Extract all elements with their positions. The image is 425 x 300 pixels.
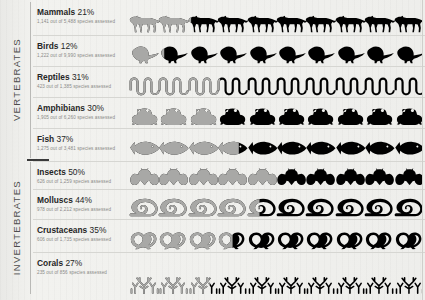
snail-icon [217, 197, 248, 218]
fish-icon [394, 137, 423, 158]
row-mammals-percent: 21% [78, 7, 95, 17]
snake-icon [158, 75, 189, 96]
wolf-icon [335, 13, 366, 34]
snake-icon [217, 75, 248, 96]
row-birds-subtitle: 1,222 out of 9,990 species assessed [37, 52, 129, 59]
bird-icon [217, 44, 248, 65]
row-insects-name: Insects [37, 167, 66, 177]
snake-icon [188, 75, 219, 96]
row-reptiles-subtitle: 423 out of 1,385 species assessed [37, 83, 129, 90]
row-reptiles[interactable]: Reptiles 31%423 out of 1,385 species ass… [33, 66, 425, 97]
frog-icon [364, 106, 395, 127]
bird-icon [247, 44, 278, 65]
fish-icon [276, 137, 307, 158]
snail-icon [247, 197, 278, 218]
bird-icon [188, 44, 219, 65]
row-fish-percent: 37% [57, 134, 74, 144]
infographic-root: VERTEBRATES INVERTEBRATES Mammals 21%1,1… [0, 0, 425, 300]
shrimp-icon [305, 230, 336, 251]
row-mammals-subtitle: 1,141 out of 5,488 species assessed [37, 18, 129, 25]
row-reptiles-percent: 31% [72, 72, 89, 82]
wolf-icon [158, 13, 189, 34]
insect-icon [276, 167, 307, 188]
bird-icon [158, 44, 189, 65]
coral-icon [158, 274, 189, 295]
coral-icon [129, 274, 160, 295]
shrimp-icon [335, 230, 366, 251]
row-birds[interactable]: Birds 12%1,222 out of 9,990 species asse… [33, 35, 425, 66]
shrimp-icon [394, 230, 423, 251]
snake-icon [129, 75, 160, 96]
coral-icon [276, 274, 307, 295]
row-fish-subtitle: 1,275 out of 3,481 species assessed [37, 145, 129, 152]
group-rule-invertebrates [30, 162, 31, 294]
frog-icon [394, 106, 423, 127]
row-fish-pictogram [129, 129, 423, 159]
row-fish[interactable]: Fish 37%1,275 out of 3,481 species asses… [33, 128, 425, 159]
insect-icon [364, 167, 395, 188]
coral-icon [394, 274, 423, 295]
snail-icon [335, 197, 366, 218]
row-corals-label-block: Corals 27%235 out of 856 species assesse… [37, 258, 129, 276]
row-corals-name: Corals [37, 258, 63, 268]
row-molluscs-label-block: Molluscs 44%978 out of 2,212 species ass… [37, 195, 129, 213]
snail-icon [129, 197, 160, 218]
row-birds-pictogram [129, 36, 423, 66]
shrimp-icon [158, 230, 189, 251]
row-reptiles-label-block: Reptiles 31%423 out of 1,385 species ass… [37, 72, 129, 90]
frog-icon [247, 106, 278, 127]
group-rule-vertebrates [30, 2, 31, 158]
fish-icon [335, 137, 366, 158]
row-molluscs[interactable]: Molluscs 44%978 out of 2,212 species ass… [33, 189, 425, 219]
row-crustaceans-name: Crustaceans [37, 225, 87, 235]
snail-icon [158, 197, 189, 218]
snake-icon [335, 75, 366, 96]
insect-icon [394, 167, 423, 188]
row-crustaceans-subtitle: 606 out of 1,735 species assessed [37, 236, 129, 243]
shrimp-icon [247, 230, 278, 251]
row-mammals-title: Mammals 21% [37, 7, 129, 17]
bird-icon [335, 44, 366, 65]
group-vertebrates-label: VERTEBRATES [11, 38, 22, 121]
row-amphibians-subtitle: 1,905 out of 6,260 species assessed [37, 114, 129, 121]
row-birds-title: Birds 12% [37, 41, 129, 51]
row-insects[interactable]: Insects 50%626 out of 1,259 species asse… [33, 161, 425, 189]
row-insects-pictogram [129, 162, 423, 189]
row-mammals-label-block: Mammals 21%1,141 out of 5,488 species as… [37, 7, 129, 25]
row-amphibians[interactable]: Amphibians 30%1,905 out of 6,260 species… [33, 97, 425, 128]
wolf-icon [129, 13, 160, 34]
row-mammals[interactable]: Mammals 21%1,141 out of 5,488 species as… [33, 2, 425, 35]
row-molluscs-subtitle: 978 out of 2,212 species assessed [37, 206, 129, 213]
row-insects-percent: 50% [68, 167, 85, 177]
snake-icon [305, 75, 336, 96]
snake-icon [394, 75, 423, 96]
row-reptiles-name: Reptiles [37, 72, 70, 82]
row-amphibians-name: Amphibians [37, 103, 85, 113]
row-insects-title: Insects 50% [37, 167, 129, 177]
row-fish-label-block: Fish 37%1,275 out of 3,481 species asses… [37, 134, 129, 152]
row-fish-name: Fish [37, 134, 54, 144]
shrimp-icon [188, 230, 219, 251]
frog-icon [335, 106, 366, 127]
row-corals-percent: 27% [65, 258, 82, 268]
row-reptiles-title: Reptiles 31% [37, 72, 129, 82]
coral-icon [364, 274, 395, 295]
row-corals-title: Corals 27% [37, 258, 129, 268]
snail-icon [394, 197, 423, 218]
row-insects-subtitle: 626 out of 1,259 species assessed [37, 178, 129, 185]
insect-icon [158, 167, 189, 188]
coral-icon [188, 274, 219, 295]
frog-icon [188, 106, 219, 127]
row-amphibians-pictogram [129, 98, 423, 128]
row-corals[interactable]: Corals 27%235 out of 856 species assesse… [33, 252, 425, 296]
row-amphibians-title: Amphibians 30% [37, 103, 129, 113]
row-mammals-name: Mammals [37, 7, 75, 17]
row-crustaceans[interactable]: Crustaceans 35%606 out of 1,735 species … [33, 219, 425, 252]
row-corals-subtitle: 235 out of 856 species assessed [37, 269, 129, 276]
insect-icon [188, 167, 219, 188]
shrimp-icon [276, 230, 307, 251]
wolf-icon [247, 13, 278, 34]
coral-icon [335, 274, 366, 295]
snail-icon [188, 197, 219, 218]
wolf-icon [305, 13, 336, 34]
